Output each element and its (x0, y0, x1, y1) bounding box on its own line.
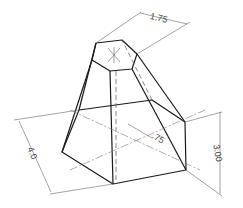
dim-ext-1.75-a (96, 12, 141, 43)
dim-ext-3.00-a (185, 112, 222, 122)
hex-frustum-drawing (0, 0, 243, 208)
edge-right (137, 54, 185, 122)
base-hexagon (62, 100, 186, 184)
dim-ext-1.75-b (137, 22, 190, 54)
dim-ext-3.00-b (186, 170, 222, 196)
edge-left (62, 60, 92, 152)
dim-ext-4.0-a (14, 110, 79, 120)
dim-line-.75 (128, 124, 152, 138)
base-centerline-1 (70, 110, 205, 170)
edge-back-left (79, 43, 96, 110)
dim-ext-4.0-b (50, 184, 113, 194)
drawing-canvas: 1.75 3.00 4.0 .75 (0, 0, 243, 208)
edge-front (110, 71, 113, 184)
